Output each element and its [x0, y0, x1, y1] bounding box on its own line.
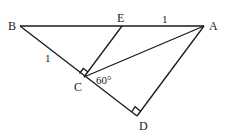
label-b: B	[8, 19, 16, 33]
label-a: A	[209, 19, 218, 33]
diagram-canvas: B E A C D 1 1 60°	[0, 0, 229, 136]
segment-bd	[20, 26, 137, 116]
length-label-bc: 1	[45, 52, 51, 64]
label-c: C	[74, 80, 82, 94]
label-d: D	[139, 119, 148, 133]
length-label-ea: 1	[162, 13, 168, 25]
segment-ca	[84, 26, 204, 77]
angle-label-acd: 60°	[96, 74, 111, 86]
segment-ad	[137, 26, 204, 116]
right-angle-mark-d	[132, 107, 141, 112]
geometry-diagram: B E A C D 1 1 60°	[0, 0, 229, 136]
label-e: E	[117, 11, 124, 25]
